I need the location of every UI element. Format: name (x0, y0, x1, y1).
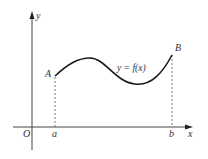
point-b-label: B (175, 42, 181, 53)
origin-label: O (23, 128, 30, 139)
curve-label: y = f(x) (116, 63, 146, 74)
function-curve (55, 55, 172, 84)
y-axis-arrow-icon (30, 11, 35, 19)
tick-b-label: b (169, 128, 174, 139)
point-a-label: A (44, 68, 52, 79)
x-axis-label: x (187, 128, 193, 139)
tick-a-label: a (52, 128, 57, 139)
function-graph: y A B y = f(x) O a b x (0, 0, 208, 159)
y-axis-label: y (35, 10, 41, 21)
